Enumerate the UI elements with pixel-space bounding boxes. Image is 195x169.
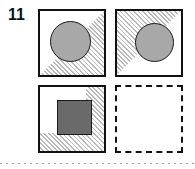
panel-bottom-left-plane bbox=[40, 87, 104, 151]
panel-top-right bbox=[115, 9, 183, 77]
panel-top-left-plane bbox=[40, 11, 104, 75]
dark-gray-square bbox=[57, 100, 92, 135]
gray-circle bbox=[50, 21, 91, 62]
gray-circle bbox=[135, 23, 174, 62]
worksheet-figure: 11 bbox=[0, 0, 195, 169]
page-cut-line bbox=[0, 163, 195, 164]
panel-top-right-plane bbox=[117, 11, 181, 75]
question-number: 11 bbox=[8, 7, 25, 23]
panel-bottom-left bbox=[38, 85, 106, 153]
panel-top-left bbox=[38, 9, 106, 77]
panel-bottom-right-answer-blank[interactable] bbox=[115, 85, 183, 153]
panel-bottom-right-plane bbox=[117, 87, 181, 151]
